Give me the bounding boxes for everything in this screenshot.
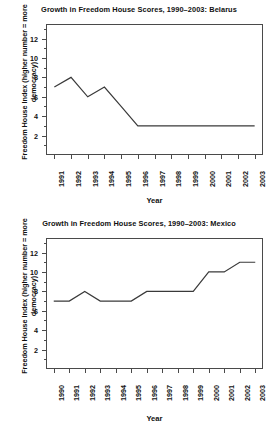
- x-tick-label: 2002: [241, 171, 250, 187]
- x-tick-label: 1990: [57, 385, 66, 401]
- chart-mexico: Growth in Freedom House Scores, 1990–200…: [0, 214, 278, 428]
- x-tick-label: 1991: [57, 171, 66, 187]
- x-tick-mark: [54, 155, 55, 159]
- x-tick-label: 1992: [74, 171, 83, 187]
- x-tick-label: 1998: [181, 385, 190, 401]
- y-tick-label: 12: [20, 35, 38, 44]
- x-tick-mark: [100, 369, 101, 373]
- x-tick-mark: [209, 369, 210, 373]
- x-tick-mark: [221, 155, 222, 159]
- x-tick-mark: [193, 369, 194, 373]
- y-tick-mark-minor: [44, 282, 46, 283]
- x-tick-mark: [238, 155, 239, 159]
- x-tick-label: 1995: [124, 171, 133, 187]
- y-tick-mark-minor: [44, 68, 46, 69]
- x-tick-label: 2000: [212, 385, 221, 401]
- y-tick-mark-minor: [44, 87, 46, 88]
- y-tick-label: 6: [20, 93, 38, 102]
- x-tick-mark: [69, 369, 70, 373]
- x-tick-label: 1995: [134, 385, 143, 401]
- x-tick-mark: [188, 155, 189, 159]
- x-tick-label: 1993: [91, 171, 100, 187]
- y-tick-label: 4: [20, 326, 38, 335]
- x-tick-label: 1994: [107, 171, 116, 187]
- y-axis-label-belarus: Freedom House Index (higher number = mor…: [20, 0, 38, 167]
- x-tick-label: 1992: [88, 385, 97, 401]
- y-tick-label: 10: [20, 268, 38, 277]
- y-tick-mark-minor: [44, 145, 46, 146]
- y-tick-mark: [42, 39, 46, 40]
- x-tick-mark: [85, 369, 86, 373]
- figure-page: Growth in Freedom House Scores, 1990–200…: [0, 0, 278, 428]
- x-tick-mark: [255, 369, 256, 373]
- y-tick-mark-minor: [44, 29, 46, 30]
- y-tick-mark: [42, 253, 46, 254]
- x-tick-label: 2003: [258, 385, 267, 401]
- y-tick-mark-minor: [44, 243, 46, 244]
- x-tick-label: 1994: [119, 385, 128, 401]
- y-tick-mark-minor: [44, 106, 46, 107]
- y-tick-mark-minor: [44, 48, 46, 49]
- x-tick-label: 2000: [208, 171, 217, 187]
- x-tick-mark: [178, 369, 179, 373]
- x-tick-label: 1993: [103, 385, 112, 401]
- y-tick-mark: [42, 97, 46, 98]
- x-tick-mark: [205, 155, 206, 159]
- y-tick-mark: [42, 291, 46, 292]
- chart-title-mexico: Growth in Freedom House Scores, 1990–200…: [0, 219, 278, 228]
- x-tick-mark: [116, 369, 117, 373]
- plot-line-belarus: [46, 24, 263, 155]
- x-tick-label: 2002: [243, 385, 252, 401]
- y-tick-mark: [42, 116, 46, 117]
- x-tick-label: 1999: [196, 385, 205, 401]
- y-tick-label: 2: [20, 132, 38, 141]
- y-tick-label: 4: [20, 112, 38, 121]
- x-tick-mark: [104, 155, 105, 159]
- y-tick-mark: [42, 330, 46, 331]
- chart-title-belarus: Growth in Freedom House Scores, 1990–200…: [0, 5, 278, 14]
- x-tick-label: 1997: [158, 171, 167, 187]
- x-tick-label: 1991: [72, 385, 81, 401]
- y-tick-mark: [42, 77, 46, 78]
- y-tick-mark-minor: [44, 262, 46, 263]
- data-series-line: [54, 262, 256, 301]
- y-tick-mark-minor: [44, 301, 46, 302]
- data-series-line: [54, 77, 254, 126]
- x-tick-mark: [121, 155, 122, 159]
- x-axis-label-belarus: Year: [46, 196, 263, 205]
- x-tick-label: 1999: [191, 171, 200, 187]
- x-tick-mark: [88, 155, 89, 159]
- x-tick-mark: [162, 369, 163, 373]
- y-tick-mark-minor: [44, 340, 46, 341]
- x-tick-mark: [131, 369, 132, 373]
- y-tick-mark-minor: [44, 320, 46, 321]
- x-tick-mark: [224, 369, 225, 373]
- y-tick-label: 6: [20, 307, 38, 316]
- x-axis-label-mexico: Year: [46, 414, 263, 423]
- x-tick-label: 1996: [150, 385, 159, 401]
- y-tick-mark: [42, 136, 46, 137]
- x-tick-mark: [255, 155, 256, 159]
- plot-line-mexico: [46, 238, 263, 369]
- x-tick-mark: [171, 155, 172, 159]
- chart-belarus: Growth in Freedom House Scores, 1990–200…: [0, 0, 278, 214]
- y-tick-mark-minor: [44, 126, 46, 127]
- y-tick-mark-minor: [44, 359, 46, 360]
- x-tick-label: 2001: [227, 385, 236, 401]
- y-tick-label: 8: [20, 287, 38, 296]
- x-tick-label: 2001: [224, 171, 233, 187]
- x-tick-mark: [155, 155, 156, 159]
- y-tick-label: 10: [20, 54, 38, 63]
- y-tick-mark: [42, 58, 46, 59]
- x-tick-mark: [71, 155, 72, 159]
- x-tick-label: 1998: [174, 171, 183, 187]
- x-tick-label: 1997: [165, 385, 174, 401]
- x-tick-mark: [138, 155, 139, 159]
- y-tick-label: 12: [20, 249, 38, 258]
- x-tick-label: 2003: [258, 171, 267, 187]
- x-tick-label: 1996: [141, 171, 150, 187]
- x-tick-mark: [240, 369, 241, 373]
- y-tick-label: 8: [20, 73, 38, 82]
- x-tick-mark: [147, 369, 148, 373]
- y-tick-mark: [42, 311, 46, 312]
